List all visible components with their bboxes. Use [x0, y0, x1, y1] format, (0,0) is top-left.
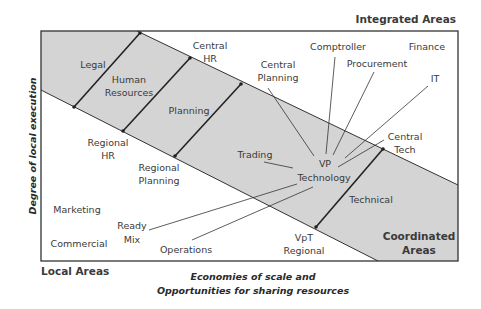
regional-hr-label-1: Regional	[88, 137, 129, 148]
central-planning-label-1: Central	[261, 59, 296, 70]
vp-technology-label-1: VP	[319, 158, 331, 169]
vpt-regional-label-2: Regional	[284, 245, 325, 256]
vpt-regional-label-1: VpT	[295, 232, 314, 243]
x-axis-label-2: Opportunities for sharing resources	[157, 285, 350, 296]
ready-mix-label-1: Ready	[117, 220, 147, 231]
operations-label: Operations	[160, 244, 212, 255]
comptroller-label: Comptroller	[310, 41, 366, 52]
human-resources-label-1: Human	[112, 74, 146, 85]
regional-planning-label-2: Planning	[139, 175, 180, 186]
integrated-areas-label: Integrated Areas	[356, 13, 456, 25]
commercial-label: Commercial	[51, 238, 108, 249]
coordinated-areas-label-1: Coordinated	[383, 230, 456, 242]
regional-planning-label-1: Regional	[139, 162, 180, 173]
planning-label: Planning	[169, 105, 210, 116]
legal-label: Legal	[80, 59, 105, 70]
vp-technology-label-2: Technology	[296, 172, 351, 183]
procurement-label: Procurement	[347, 58, 408, 69]
organization-diagram: Integrated Areas Local Areas Coordinated…	[0, 0, 481, 309]
central-tech-label-2: Tech	[393, 144, 415, 155]
human-resources-label-2: Resources	[105, 87, 154, 98]
it-label: IT	[431, 73, 440, 84]
central-hr-label-1: Central	[193, 40, 228, 51]
x-axis-label-1: Economies of scale and	[190, 271, 315, 282]
central-planning-label-2: Planning	[258, 72, 299, 83]
marketing-label: Marketing	[53, 204, 100, 215]
trading-label: Trading	[237, 149, 273, 160]
finance-label: Finance	[409, 41, 445, 52]
coordinated-areas-label-2: Areas	[402, 244, 436, 256]
technical-label: Technical	[348, 194, 393, 205]
central-hr-label-2: HR	[203, 53, 217, 64]
y-axis-label: Degree of local execution	[27, 77, 38, 214]
central-tech-label-1: Central	[388, 131, 423, 142]
ready-mix-label-2: Mix	[124, 234, 141, 245]
regional-hr-label-2: HR	[101, 150, 115, 161]
local-areas-label: Local Areas	[41, 265, 109, 277]
